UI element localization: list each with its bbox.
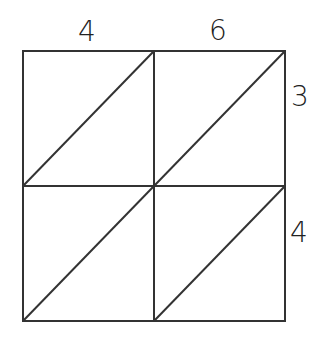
diagonal-cell-1-1 — [23, 51, 154, 186]
top-digit-2: 6 — [209, 17, 227, 45]
diagonal-cell-2-1 — [23, 186, 154, 321]
diagonal-cell-1-2 — [154, 51, 285, 186]
right-digit-2: 4 — [290, 219, 308, 247]
right-digit-1: 3 — [291, 83, 309, 111]
lattice-grid — [0, 0, 330, 338]
diagonal-cell-2-2 — [154, 186, 285, 321]
top-digit-1: 4 — [78, 18, 96, 46]
